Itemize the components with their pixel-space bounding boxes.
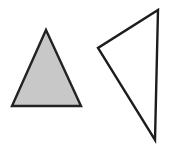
figure-canvas	[0, 0, 180, 149]
shape-canvas-svg	[0, 0, 180, 149]
